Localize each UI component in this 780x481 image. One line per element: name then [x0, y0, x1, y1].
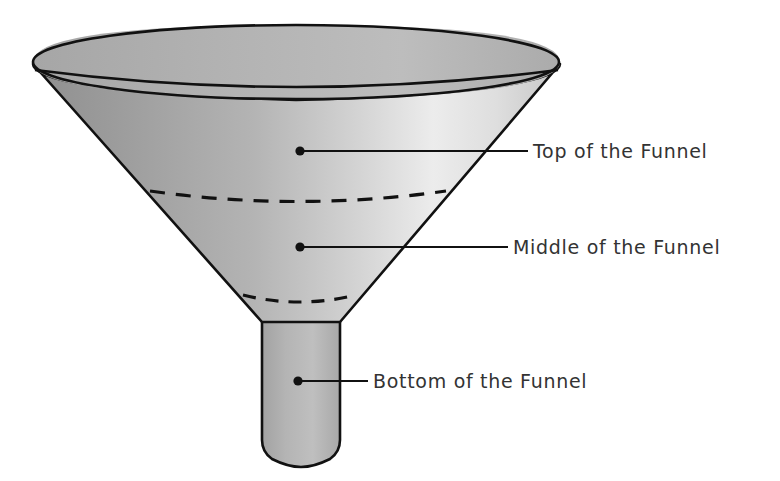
callout-dot-middle [295, 242, 304, 251]
funnel-cone-body [33, 64, 560, 322]
callout-dot-top [295, 146, 304, 155]
label-top-of-funnel: Top of the Funnel [533, 142, 708, 161]
funnel-stem [262, 318, 340, 467]
label-bottom-of-funnel: Bottom of the Funnel [373, 372, 587, 391]
funnel-diagram-canvas: Top of the Funnel Middle of the Funnel B… [0, 0, 780, 481]
label-middle-of-funnel: Middle of the Funnel [513, 238, 720, 257]
callout-dot-bottom [293, 376, 302, 385]
